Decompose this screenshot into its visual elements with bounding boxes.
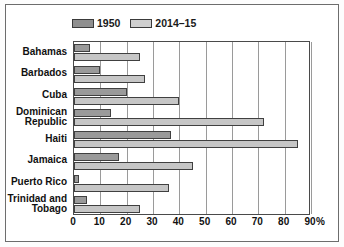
bar-1950 — [74, 153, 119, 161]
x-tick-label: 10 — [94, 216, 105, 228]
category-label-line: Jamaica — [0, 155, 67, 166]
x-tick-label: 60 — [225, 216, 236, 228]
bar-1950 — [74, 44, 90, 52]
chart-legend: 19502014–15 — [72, 16, 196, 30]
category-label-line: Barbados — [0, 68, 67, 79]
x-tick-label: 50 — [199, 216, 210, 228]
bar-2014-15 — [74, 140, 298, 148]
category-label-puerto-rico: Puerto Rico — [0, 177, 67, 188]
bar-rows — [74, 42, 309, 214]
plot-area — [73, 41, 310, 215]
x-tick-label: 70 — [252, 216, 263, 228]
bar-1950 — [74, 88, 127, 96]
bar-group — [74, 129, 309, 151]
bar-2014-15 — [74, 97, 179, 105]
x-tick-label: 80 — [278, 216, 289, 228]
bar-group — [74, 64, 309, 86]
category-label-line: Haiti — [0, 134, 67, 145]
x-axis-ticks: 0102030405060708090 — [73, 216, 310, 230]
x-axis-unit-label: % — [316, 216, 325, 228]
bar-2014-15 — [74, 75, 145, 83]
legend-entry-2: 2014–15 — [130, 18, 196, 29]
bar-2014-15 — [74, 118, 264, 126]
bar-2014-15 — [74, 184, 169, 192]
bar-1950 — [74, 66, 100, 74]
legend-label: 1950 — [97, 18, 120, 29]
category-label-cuba: Cuba — [0, 90, 67, 101]
category-label-dominican-republic: DominicanRepublic — [0, 107, 67, 128]
bar-1950 — [74, 131, 171, 139]
bar-group — [74, 42, 309, 64]
bar-group — [74, 151, 309, 173]
category-label-barbados: Barbados — [0, 68, 67, 79]
bar-group — [74, 107, 309, 129]
category-label-haiti: Haiti — [0, 134, 67, 145]
legend-swatch-icon — [72, 19, 94, 28]
legend-label: 2014–15 — [155, 18, 196, 29]
category-label-line: Bahamas — [0, 47, 67, 58]
category-label-line: Cuba — [0, 90, 67, 101]
category-label-bahamas: Bahamas — [0, 47, 67, 58]
category-label-line: Puerto Rico — [0, 177, 67, 188]
category-label-jamaica: Jamaica — [0, 155, 67, 166]
chart-figure: 19502014–15 BahamasBarbadosCubaDominican… — [0, 0, 344, 247]
bar-group — [74, 173, 309, 195]
x-tick-label: 30 — [146, 216, 157, 228]
category-label-line: Republic — [0, 117, 67, 128]
bar-group — [74, 86, 309, 108]
category-label-line: Tobago — [0, 204, 67, 215]
bar-1950 — [74, 109, 111, 117]
category-label-trinidad-and-tobago: Trinidad andTobago — [0, 194, 67, 215]
bar-1950 — [74, 196, 87, 204]
bar-2014-15 — [74, 162, 193, 170]
legend-swatch-icon — [130, 19, 152, 28]
bar-2014-15 — [74, 205, 140, 213]
bar-group — [74, 194, 309, 216]
x-tick-label: 0 — [70, 216, 76, 228]
x-tick-label: 90 — [304, 216, 315, 228]
bar-1950 — [74, 175, 79, 183]
x-tick-label: 20 — [120, 216, 131, 228]
bar-2014-15 — [74, 53, 140, 61]
category-axis-labels: BahamasBarbadosCubaDominicanRepublicHait… — [0, 41, 70, 215]
x-tick-label: 40 — [173, 216, 184, 228]
legend-entry-1: 1950 — [72, 18, 120, 29]
